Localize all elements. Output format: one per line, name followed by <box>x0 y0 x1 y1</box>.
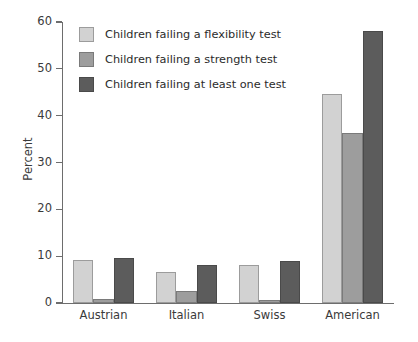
legend-item: Children failing a flexibility test <box>79 22 319 47</box>
legend-label: Children failing a flexibility test <box>105 28 281 41</box>
bar <box>156 272 177 303</box>
bar-chart: Percent 0102030405060 AustrianItalianSwi… <box>0 0 418 342</box>
bar <box>342 133 363 303</box>
legend-swatch-icon <box>79 27 94 42</box>
legend-swatch-icon <box>79 77 94 92</box>
bar <box>93 299 114 303</box>
bar <box>197 265 218 303</box>
bar <box>73 260 94 303</box>
bar <box>322 94 343 303</box>
y-axis-tick-label: 60 <box>10 16 52 28</box>
y-axis-tick-label: 10 <box>10 250 52 262</box>
legend-swatch-icon <box>79 52 94 67</box>
y-axis-tick-label: 40 <box>10 110 52 122</box>
bar <box>280 261 301 303</box>
bar <box>239 265 260 303</box>
legend-item: Children failing a strength test <box>79 47 319 72</box>
x-axis-category-label: American <box>303 308 403 322</box>
legend: Children failing a flexibility testChild… <box>79 22 319 97</box>
legend-item: Children failing at least one test <box>79 72 319 97</box>
y-axis-tick-label: 50 <box>10 63 52 75</box>
y-axis-tick-label: 30 <box>10 157 52 169</box>
legend-label: Children failing a strength test <box>105 53 277 66</box>
bar <box>114 258 135 303</box>
bar <box>176 291 197 303</box>
y-axis-tick-label: 20 <box>10 203 52 215</box>
bar <box>259 300 280 303</box>
y-axis-tick-label: 0 <box>10 297 52 309</box>
bar <box>363 31 384 303</box>
legend-label: Children failing at least one test <box>105 78 286 91</box>
